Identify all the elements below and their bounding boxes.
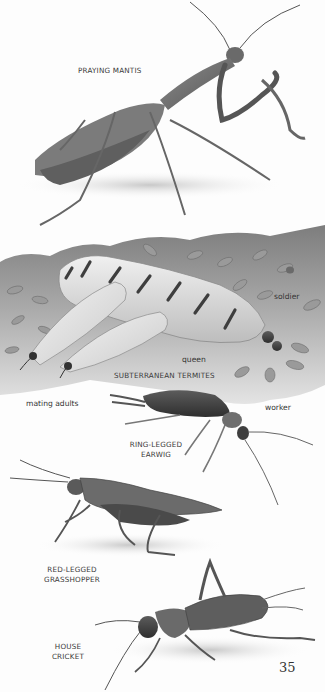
book-page: PRAYING MANTIS soldier queen SUBTERRANEA… xyxy=(0,0,325,692)
termite-queen-label: queen xyxy=(182,355,206,365)
grasshopper-drawing xyxy=(10,460,225,557)
house-cricket-label-line1: HOUSE xyxy=(38,642,98,652)
grasshopper-label: RED-LEGGED GRASSHOPPER xyxy=(32,565,112,585)
house-cricket-label-line2: CRICKET xyxy=(38,652,98,662)
page-number: 35 xyxy=(279,660,296,675)
termite-soldier-label: soldier xyxy=(274,292,299,302)
earwig-label: RING-LEGGED EARWIG xyxy=(120,440,192,460)
termite-worker-label: worker xyxy=(265,403,291,413)
subterranean-termites-label: SUBTERRANEAN TERMITES xyxy=(114,371,215,381)
praying-mantis-drawing xyxy=(15,2,305,225)
termite-mating-adults-label: mating adults xyxy=(26,399,79,409)
house-cricket-label: HOUSE CRICKET xyxy=(38,642,98,662)
grasshopper-label-line1: RED-LEGGED xyxy=(32,565,112,575)
praying-mantis-label: PRAYING MANTIS xyxy=(78,66,142,76)
earwig-label-line2: EARWIG xyxy=(120,450,192,460)
earwig-label-line1: RING-LEGGED xyxy=(120,440,192,450)
insect-illustrations xyxy=(0,0,325,692)
grasshopper-label-line2: GRASSHOPPER xyxy=(32,575,112,585)
